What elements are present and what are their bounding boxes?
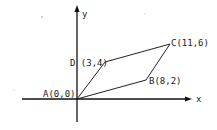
vertex-label-d: D (3,4): [70, 58, 108, 68]
x-axis-label: x: [196, 94, 202, 104]
vertex-label-b: B(8,2): [149, 76, 182, 86]
coordinate-diagram: x y A(0,0) B(8,2) C(11,6) D (3,4): [0, 0, 217, 130]
x-axis-arrow-icon: [185, 97, 192, 102]
vertex-label-c: C(11,6): [171, 38, 209, 48]
scan-speck: [41, 16, 43, 18]
scan-speck: [13, 89, 14, 90]
edge-ab: [77, 80, 146, 99]
y-axis-label: y: [82, 9, 88, 19]
vertex-label-a: A(0,0): [43, 89, 76, 99]
y-axis-arrow-icon: [75, 5, 80, 12]
scan-speck: [145, 14, 146, 15]
